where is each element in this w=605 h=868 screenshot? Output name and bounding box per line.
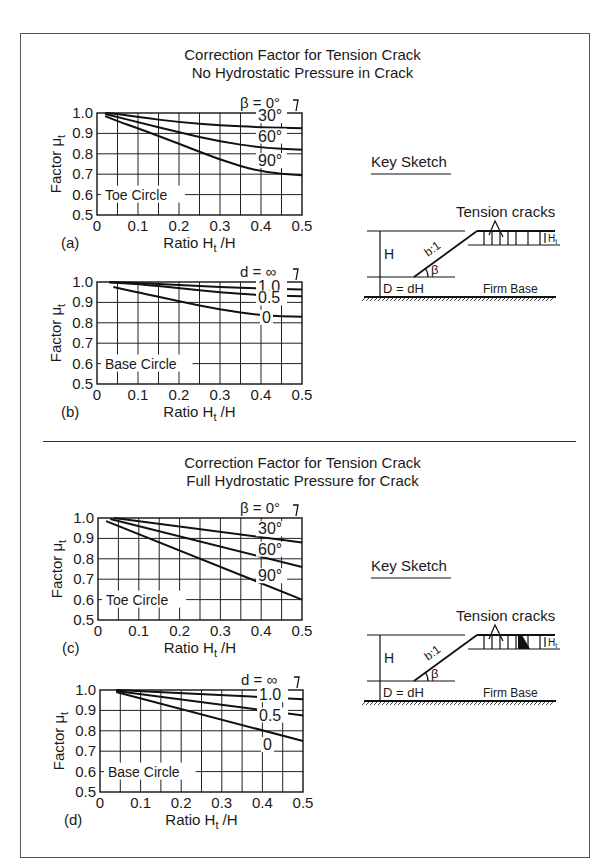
x-tick-label: 0.5 [293,794,314,811]
x-tick-label: 0.3 [210,386,231,403]
y-axis-label: Factor μt [50,712,70,770]
D-label: D = dH [383,685,424,700]
tension-cracks-label: Tension cracks [456,203,555,220]
x-tick-label: 0.3 [211,794,232,811]
panel-label: (b) [61,403,79,420]
x-tick-label: 0.4 [251,622,272,639]
legend-title: β = 0° [240,499,280,516]
y-tick-label: 0.9 [72,124,93,141]
series-label: 1.0 [259,686,281,703]
legend-arrow-icon [293,269,298,280]
y-axis-label: Factor μt [48,540,68,598]
y-tick-label: 0.7 [75,742,96,759]
x-tick-label: 0.1 [130,794,151,811]
legend-title: d = ∞ [241,671,277,688]
annotation-label: Toe Circle [106,592,168,608]
beta-label: β [431,666,438,681]
series-label: 90° [258,152,282,169]
key-sketch-full-water: Key SketchTension cracksHD = dHFirm Base… [362,557,560,705]
x-tick-label: 0 [94,622,102,639]
series-label: 0 [262,309,271,326]
H-label: H [384,246,394,262]
Ht-label: Ht [548,637,557,649]
y-tick-label: 0.6 [72,355,93,372]
x-axis-label: Ratio Ht /H [164,639,236,659]
y-tick-label: 0.9 [72,293,93,310]
y-tick-label: 0.9 [73,529,94,546]
x-tick-label: 0.1 [128,386,149,403]
x-tick-label: 0.3 [210,217,231,234]
H-label: H [384,650,394,666]
y-tick-label: 0.8 [72,314,93,331]
y-tick-label: 1.0 [73,509,94,526]
y-tick-label: 0.8 [72,145,93,162]
firm-base-label: Firm Base [483,686,538,700]
x-tick-label: 0.3 [210,622,231,639]
y-tick-label: 0.6 [73,591,94,608]
legend-arrow-icon [293,505,298,516]
y-tick-label: 0.5 [72,206,93,223]
y-axis-label: Factor μt [47,304,67,362]
annotation-label: Toe Circle [105,187,167,203]
slope-line [414,635,477,681]
legend-arrow-icon [293,100,298,111]
key-sketch-label: Key Sketch [371,153,447,170]
series-label: 30° [258,520,282,537]
x-tick-label: 0 [96,794,104,811]
y-tick-label: 0.7 [72,334,93,351]
x-tick-label: 0.2 [169,217,190,234]
x-tick-label: 0 [93,217,101,234]
x-tick-label: 0.5 [292,386,313,403]
beta-label: β [431,262,438,277]
y-tick-label: 0.7 [73,570,94,587]
x-tick-label: 0.4 [251,386,272,403]
y-tick-label: 0.8 [73,550,94,567]
chart-c: Toe Circle30°60°90°β = 0°0.50.60.70.80.9… [48,499,312,659]
y-tick-label: 1.0 [75,681,96,698]
figure-canvas: Toe Circle30°60°90°β = 0°0.50.60.70.80.9… [0,0,605,868]
x-tick-label: 0.2 [169,386,190,403]
tension-cracks-label: Tension cracks [456,607,555,624]
slope-line [414,231,477,277]
legend-arrow-icon [294,677,299,688]
D-label: D = dH [383,281,424,296]
chart-b: Base Circle1.00.50d = ∞0.50.60.70.80.91.… [47,263,312,423]
panel-label: (a) [61,234,79,251]
y-tick-label: 1.0 [72,104,93,121]
x-tick-label: 0.4 [252,794,273,811]
series-label: 0.5 [259,707,281,724]
series-label: 90° [258,567,282,584]
x-tick-label: 0.5 [292,217,313,234]
y-tick-label: 0.6 [75,763,96,780]
x-axis-label: Ratio Ht /H [163,234,235,254]
x-tick-label: 0.2 [169,622,190,639]
slope-ratio-label: b:1 [422,238,444,259]
y-tick-label: 0.9 [75,701,96,718]
x-tick-label: 0.2 [171,794,192,811]
series-label: 0 [263,736,272,753]
legend-title: d = ∞ [240,263,276,280]
y-axis-label: Factor μt [47,135,67,193]
x-tick-label: 0 [93,386,101,403]
x-tick-label: 0.1 [128,622,149,639]
annotation-label: Base Circle [105,356,177,372]
x-tick-label: 0.5 [292,622,313,639]
series-label: 60° [258,541,282,558]
panel-label: (d) [64,811,82,828]
panel-label: (c) [62,639,80,656]
firm-base-label: Firm Base [483,282,538,296]
y-tick-label: 0.7 [72,165,93,182]
key-sketch-no-water: Key SketchTension cracksHD = dHFirm Base… [362,153,560,301]
chart-a: Toe Circle30°60°90°β = 0°0.50.60.70.80.9… [47,94,312,254]
slope-ratio-label: b:1 [422,642,444,663]
y-tick-label: 0.5 [72,375,93,392]
y-tick-label: 0.8 [75,722,96,739]
x-axis-label: Ratio Ht /H [165,811,237,831]
y-tick-label: 0.6 [72,186,93,203]
chart-d: Base Circle1.00.50d = ∞0.50.60.70.80.91.… [50,671,313,831]
x-tick-label: 0.1 [128,217,149,234]
Ht-label: Ht [548,233,557,245]
series-label: 0.5 [258,289,280,306]
legend-title: β = 0° [240,94,280,111]
series-label: 60° [258,128,282,145]
